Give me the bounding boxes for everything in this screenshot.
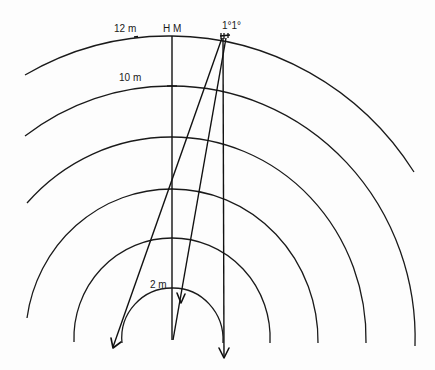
- source-point: [220, 33, 230, 39]
- ray-right-vertical: [223, 38, 224, 358]
- arc-12m: [25, 36, 414, 172]
- label-2m: 2 m: [150, 279, 167, 290]
- label-10m: 10 m: [119, 72, 141, 83]
- tick-12m: [134, 37, 138, 38]
- label-angles: 1°1°: [222, 20, 241, 31]
- wavefront-arcs: [25, 36, 415, 346]
- arc-10m: [25, 86, 415, 346]
- label-hm: H M: [163, 23, 181, 34]
- label-12m: 12 m: [114, 23, 136, 34]
- sound-ray-diagram: 12 m 10 m 2 m H M 1°1°: [0, 0, 435, 370]
